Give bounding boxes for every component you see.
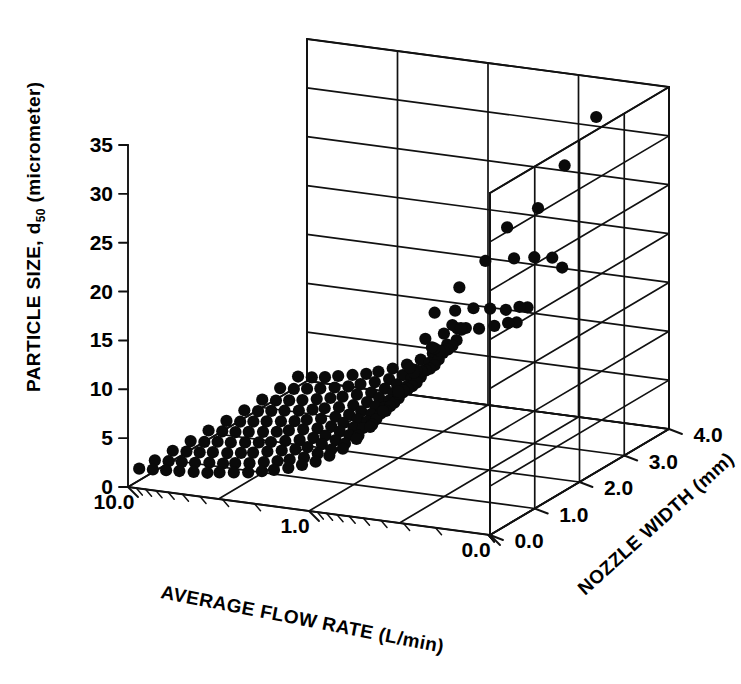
data-point	[207, 446, 219, 458]
data-point	[419, 333, 431, 345]
data-point	[369, 376, 381, 388]
data-point	[268, 464, 280, 476]
data-point	[147, 463, 159, 475]
data-point	[296, 459, 308, 471]
data-point	[438, 327, 450, 339]
data-point	[319, 371, 331, 383]
x-tick-label: 0.0	[461, 538, 490, 561]
data-point	[198, 436, 210, 448]
data-point	[449, 305, 461, 317]
data-point	[211, 436, 223, 448]
data-point	[270, 394, 282, 406]
data-point	[484, 303, 496, 315]
data-point	[220, 415, 232, 427]
data-point	[160, 464, 172, 476]
data-point	[532, 202, 544, 214]
data-point	[392, 386, 404, 398]
data-point	[306, 371, 318, 383]
data-point	[528, 251, 540, 263]
data-point	[185, 435, 197, 447]
z-tick-label: 30	[90, 182, 113, 205]
data-point	[319, 402, 331, 414]
data-point	[429, 307, 441, 319]
data-point	[274, 382, 286, 394]
data-point	[501, 221, 513, 233]
data-point	[288, 383, 300, 395]
data-point	[243, 426, 255, 438]
data-point	[225, 436, 237, 448]
data-point	[229, 426, 241, 438]
z-tick-label: 10	[90, 377, 113, 400]
data-point	[332, 370, 344, 382]
data-point	[202, 424, 214, 436]
data-point	[242, 466, 254, 478]
data-point	[513, 301, 525, 313]
data-point	[364, 421, 376, 433]
data-point	[508, 252, 520, 264]
data-point	[372, 365, 384, 377]
z-axis-title-suffix: (micrometer)	[23, 82, 44, 209]
data-point	[473, 323, 485, 335]
z-axis-title-prefix: PARTICLE SIZE, d	[23, 222, 44, 392]
data-point	[201, 467, 213, 479]
data-point	[488, 320, 500, 332]
data-point	[194, 446, 206, 458]
data-point	[546, 252, 558, 264]
data-point	[238, 404, 250, 416]
z-tick-label: 35	[90, 133, 114, 156]
data-point	[283, 424, 295, 436]
data-point	[265, 405, 277, 417]
data-point	[337, 443, 349, 455]
y-tick-label: 3.0	[649, 450, 678, 473]
z-tick-label: 5	[101, 426, 113, 449]
data-point	[247, 415, 259, 427]
data-point	[351, 389, 363, 401]
data-point	[261, 415, 273, 427]
data-point	[292, 370, 304, 382]
y-tick-label: 4.0	[693, 423, 722, 446]
data-point	[387, 362, 399, 374]
data-point	[188, 466, 200, 478]
data-point	[556, 261, 568, 273]
data-point	[283, 394, 295, 406]
data-point	[235, 447, 247, 459]
x-tick-label: 1.0	[280, 514, 309, 537]
x-tick-label: 10.0	[94, 490, 135, 513]
data-point	[297, 423, 309, 435]
data-point	[261, 445, 273, 457]
data-point	[350, 433, 362, 445]
data-point	[467, 302, 479, 314]
data-point	[180, 445, 192, 457]
data-point	[324, 392, 336, 404]
data-point	[257, 426, 269, 438]
data-point	[453, 281, 465, 293]
data-point	[234, 416, 246, 428]
z-tick-label: 15	[90, 328, 114, 351]
data-point	[256, 394, 268, 406]
z-tick-label: 25	[90, 231, 114, 254]
data-point	[256, 465, 268, 477]
data-point	[282, 462, 294, 474]
data-point	[216, 425, 228, 437]
z-axis-title-subscript: 50	[34, 208, 48, 222]
data-point	[221, 447, 233, 459]
data-point	[314, 382, 326, 394]
data-point	[455, 322, 467, 334]
y-tick-label: 2.0	[604, 476, 633, 499]
data-point	[228, 466, 240, 478]
data-point	[559, 159, 571, 171]
data-point	[296, 394, 308, 406]
data-point	[301, 383, 313, 395]
y-tick-label: 0.0	[514, 529, 543, 552]
data-point	[213, 466, 225, 478]
data-point	[502, 317, 514, 329]
data-point	[306, 403, 318, 415]
data-point	[133, 463, 145, 475]
data-point	[301, 441, 313, 453]
data-point	[336, 391, 348, 403]
data-point	[247, 446, 259, 458]
data-point	[173, 465, 185, 477]
data-point	[253, 436, 265, 448]
data-point	[323, 450, 335, 462]
data-point	[239, 436, 251, 448]
